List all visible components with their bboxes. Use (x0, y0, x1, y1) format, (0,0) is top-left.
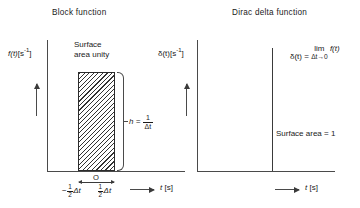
block-y-direction-arrow-icon (36, 84, 37, 116)
block-y-axis-label-unit-close: ] (29, 49, 31, 58)
panel-block-function: Block function f(t)[s-1] Surface area un… (0, 0, 200, 208)
dirac-delta-spike (272, 48, 273, 171)
block-height-brace-tick-icon (124, 121, 128, 122)
block-surface-annotation: Surface area unity (74, 40, 109, 60)
dirac-x-axis-label: t [s] (305, 183, 318, 193)
block-function-rectangle (78, 72, 115, 171)
block-x-axis-label-units: [s] (164, 183, 172, 192)
block-height-label-symbol: h = (129, 117, 140, 126)
block-tick-label-left-suffix: Δt (73, 186, 81, 195)
block-tick-label-left-denominator: 2 (67, 191, 73, 199)
dirac-y-direction-arrow-icon (186, 84, 187, 116)
dirac-x-direction-arrow-icon (275, 189, 299, 190)
block-surface-annotation-line2: area unity (74, 50, 109, 59)
block-tick-label-right-suffix: Δt (104, 186, 112, 195)
block-x-axis-label: t [s] (160, 183, 173, 193)
dirac-equation: δ(t) = lim Δt→0 f(t) (290, 44, 340, 63)
block-height-label-denominator: Δt (143, 122, 154, 131)
block-x-direction-arrow-icon (130, 189, 154, 190)
dirac-y-axis-label-function: δ(t) (158, 49, 170, 58)
block-y-axis-label-function: f(t) (8, 49, 18, 58)
dirac-equation-lhs: δ(t) = (290, 52, 309, 61)
block-tick-label-right-denominator: 2 (98, 191, 104, 199)
block-x-axis-label-var: t (160, 183, 162, 192)
dirac-x-axis-label-var: t (305, 183, 307, 192)
dirac-surface-annotation: Surface area = 1 (276, 129, 335, 139)
block-height-label: h = 1 Δt (129, 114, 153, 130)
block-tick-label-left: − 1 2 Δt (62, 184, 81, 198)
dirac-y-axis-label: δ(t)[s-1] (158, 47, 184, 59)
block-y-axis (47, 40, 48, 172)
block-width-dimension-arrows-icon (79, 182, 114, 183)
block-height-label-fraction: 1 Δt (143, 114, 154, 130)
dirac-y-axis (197, 40, 198, 172)
panel-dirac-title: Dirac delta function (232, 8, 307, 17)
panel-block-title: Block function (52, 8, 106, 17)
block-tick-label-left-sign: − (62, 186, 67, 195)
block-y-axis-label: f(t)[s-1] (8, 47, 32, 59)
dirac-x-axis (197, 171, 335, 172)
dirac-equation-rhs: f(t) (330, 44, 340, 53)
figure-canvas: Block function f(t)[s-1] Surface area un… (0, 0, 360, 208)
block-tick-label-left-fraction: 1 2 (67, 184, 73, 198)
panel-dirac-delta-function: Dirac delta function δ(t)[s-1] δ(t) = li… (190, 0, 360, 208)
dirac-equation-limit-condition: Δt→0 (311, 53, 328, 61)
dirac-x-axis-label-units: [s] (309, 183, 317, 192)
block-tick-label-right: 1 2 Δt (97, 184, 111, 198)
block-height-brace-icon (117, 72, 124, 171)
dirac-equation-limit: lim Δt→0 (311, 44, 328, 61)
block-x-axis (47, 171, 185, 172)
block-surface-annotation-line1: Surface (74, 40, 102, 49)
block-tick-label-right-numerator: 1 (98, 184, 104, 191)
dirac-equation-limit-lim: lim (311, 44, 328, 53)
block-height-label-numerator: 1 (143, 114, 154, 122)
dirac-y-axis-label-unit-close: ] (182, 49, 184, 58)
block-tick-label-right-fraction: 1 2 (98, 184, 104, 198)
block-tick-label-left-numerator: 1 (67, 184, 73, 191)
